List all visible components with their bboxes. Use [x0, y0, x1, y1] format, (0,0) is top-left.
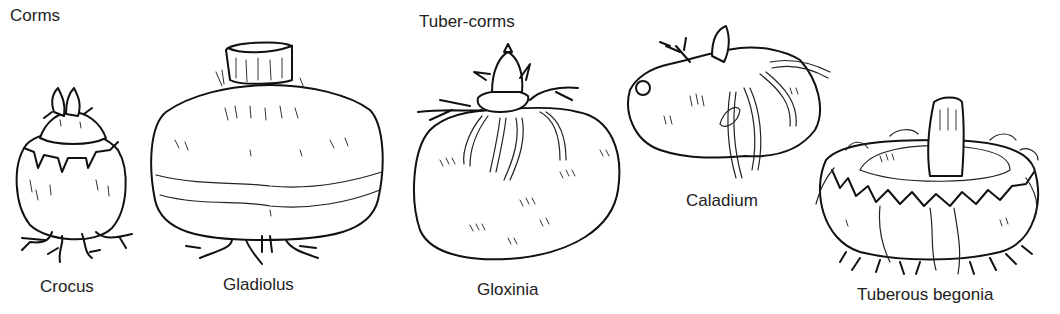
tuber-corms-heading: Tuber-corms — [419, 12, 515, 32]
label-tuberous-begonia: Tuberous begonia — [857, 285, 993, 305]
caladium-illustration — [628, 26, 830, 178]
tuberous-begonia-illustration — [816, 98, 1038, 275]
corms-heading: Corms — [10, 6, 60, 26]
label-crocus: Crocus — [40, 277, 94, 297]
label-caladium: Caladium — [686, 191, 758, 211]
crocus-illustration — [17, 88, 132, 262]
gladiolus-illustration — [151, 43, 383, 264]
label-gladiolus: Gladiolus — [223, 275, 294, 295]
label-gloxinia: Gloxinia — [477, 280, 538, 300]
illustration-canvas — [0, 0, 1060, 314]
gloxinia-illustration — [414, 44, 619, 259]
